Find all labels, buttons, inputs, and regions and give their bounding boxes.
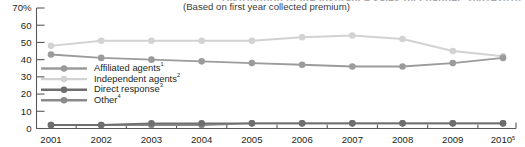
data-point — [449, 60, 456, 67]
y-axis-tick-label: 30 — [21, 71, 32, 82]
data-point — [48, 43, 55, 50]
legend-item-other: Other4 — [41, 93, 121, 104]
data-point — [48, 51, 55, 58]
y-axis-tick-label: 40 — [21, 54, 32, 65]
legend-label: Affiliated agents1 — [94, 62, 164, 73]
legend-marker-icon — [61, 76, 68, 83]
y-axis-tick-label: 20 — [21, 88, 32, 99]
y-axis-tick-label: 60 — [21, 20, 32, 31]
x-axis-tick-label: 2004 — [191, 134, 213, 145]
legend-marker-icon — [61, 86, 68, 93]
legend-label: Direct response3 — [94, 83, 163, 94]
data-point — [198, 58, 205, 65]
data-point — [98, 55, 105, 62]
plot-area: 010203040506070% 20012002200320042005200… — [0, 0, 525, 147]
data-point — [399, 63, 406, 70]
data-point — [48, 122, 55, 129]
data-point — [198, 120, 205, 127]
data-point — [198, 37, 205, 44]
data-point — [349, 63, 356, 70]
data-point — [148, 120, 155, 127]
data-point — [449, 120, 456, 127]
legend-marker-icon — [61, 97, 68, 104]
legend-label: Other4 — [94, 93, 121, 104]
y-axis-tick-label: 50 — [21, 37, 32, 48]
data-point — [500, 55, 507, 62]
x-axis-tick-label: 2009 — [442, 134, 463, 145]
data-point — [299, 120, 306, 127]
data-point — [98, 37, 105, 44]
legend-marker-icon — [61, 65, 68, 72]
x-axis-tick-label: 2007 — [342, 134, 363, 145]
data-point — [349, 32, 356, 39]
data-point — [349, 120, 356, 127]
x-axis-tick-label: 2006 — [291, 134, 312, 145]
data-point — [399, 36, 406, 43]
legend-item-direct-response: Direct response3 — [41, 83, 163, 94]
data-point — [249, 120, 256, 127]
data-point — [299, 34, 306, 41]
y-axis-tick-label: 0 — [26, 123, 31, 134]
legend-label: Independent agents2 — [94, 72, 180, 83]
data-point — [249, 60, 256, 67]
x-axis-tick-label: 2002 — [91, 134, 112, 145]
y-axis-tick-label: 10 — [21, 106, 32, 117]
x-axis-tick-label: 2008 — [392, 134, 413, 145]
data-point — [249, 37, 256, 44]
data-point — [399, 120, 406, 127]
x-axis-tick-label: 20105 — [491, 134, 515, 145]
x-axis-tick-label: 2003 — [141, 134, 162, 145]
x-axis-tick-label: 2001 — [40, 134, 61, 145]
line-chart: Distribution of life insurance sales by … — [0, 0, 525, 147]
y-axis-tick-label: 70% — [12, 2, 32, 13]
data-point — [449, 48, 456, 55]
data-point — [148, 37, 155, 44]
y-axis: 010203040506070% — [12, 2, 44, 134]
chart-legend: Affiliated agents1Independent agents2Dir… — [41, 62, 180, 105]
data-point — [299, 62, 306, 69]
x-axis-tick-label: 2005 — [241, 134, 262, 145]
legend-item-affiliated-agents: Affiliated agents1 — [41, 62, 164, 73]
data-point — [98, 122, 105, 129]
data-point — [500, 120, 507, 127]
series-independent-agents — [48, 32, 507, 59]
